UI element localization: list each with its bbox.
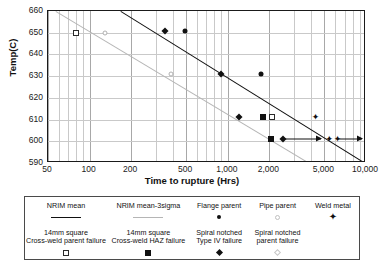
- data-point: [269, 114, 275, 120]
- legend-grid: NRIM meanNRIM mean-3sigmaFlange parentPi…: [25, 197, 359, 259]
- legend-label: Flange parent: [197, 202, 241, 211]
- y-tick: 640: [3, 48, 43, 58]
- y-tick-label: 640: [3, 48, 43, 58]
- legend-symbol: [63, 247, 69, 258]
- x-tick-label: 2,000: [258, 164, 279, 174]
- x-tick-label: 50: [42, 164, 51, 174]
- filled-diamond-icon: [216, 249, 223, 256]
- data-point: ✦: [312, 114, 319, 121]
- legend-label: Weld metal: [315, 202, 351, 211]
- legend-label: Pipe parent: [259, 202, 296, 211]
- legend-item: Spiral notchedType IV failure: [190, 227, 248, 259]
- x-tick-label: 200: [123, 164, 137, 174]
- x-axis-title: Time to rupture (Hrs): [0, 175, 384, 186]
- data-point: [259, 71, 264, 76]
- legend-item: Pipe parent: [248, 197, 306, 227]
- gridline-horizontal: [48, 54, 364, 55]
- y-tick: 660: [3, 5, 43, 15]
- x-tick-label: 500: [178, 164, 192, 174]
- legend-symbol: [217, 247, 222, 258]
- x-tick-label: 1,000: [216, 164, 237, 174]
- y-tick-label: 650: [3, 27, 43, 37]
- line-swatch-light: [133, 217, 163, 218]
- y-tick-label: 660: [3, 5, 43, 15]
- y-tick: 590: [3, 157, 43, 167]
- line-swatch-dark: [51, 217, 81, 218]
- data-point: [103, 30, 108, 35]
- legend-item: Spiral notchedparent failure: [248, 227, 306, 259]
- gridline-horizontal: [48, 33, 364, 34]
- y-tick-label: 620: [3, 92, 43, 102]
- legend-symbol: ✦: [329, 212, 337, 223]
- data-point: [169, 71, 174, 76]
- y-tick-label: 590: [3, 157, 43, 167]
- y-tick: 630: [3, 70, 43, 80]
- y-tick-label: 610: [3, 114, 43, 124]
- y-tick: 600: [3, 135, 43, 145]
- legend-item: Weld metal✦: [307, 197, 359, 227]
- open-circle-icon: [275, 215, 280, 220]
- plot-area: ✦✦✦: [47, 10, 365, 162]
- legend-symbol: [145, 247, 151, 258]
- legend-label: NRIM mean-3sigma: [116, 202, 180, 211]
- legend-item: [307, 227, 359, 259]
- open-square-icon: [63, 250, 69, 256]
- x-tick-label: 10,000: [352, 164, 378, 174]
- creep-rupture-chart: Temp(C) 590600610620630640650660 ✦✦✦ 501…: [0, 0, 384, 190]
- legend-box: NRIM meanNRIM mean-3sigmaFlange parentPi…: [24, 196, 360, 260]
- legend-label: parent failure: [257, 237, 299, 246]
- legend-label: Type IV failure: [196, 237, 242, 246]
- runout-arrow: [283, 139, 321, 140]
- data-point: [260, 114, 266, 120]
- legend-label: Cross-weld parent failure: [26, 237, 106, 246]
- x-tick-label: 100: [82, 164, 96, 174]
- legend-item: NRIM mean: [25, 197, 107, 227]
- filled-square-icon: [145, 250, 151, 256]
- y-tick-label: 600: [3, 135, 43, 145]
- legend-symbol: [217, 212, 221, 223]
- legend-symbol: [275, 212, 280, 223]
- legend-item: Flange parent: [190, 197, 248, 227]
- legend-item: 14mm squareCross-weld parent failure: [25, 227, 107, 259]
- data-point: ✦: [334, 136, 341, 143]
- star-icon: ✦: [329, 212, 337, 222]
- y-tick-label: 630: [3, 70, 43, 80]
- legend-label: Cross-weld HAZ failure: [111, 237, 185, 246]
- data-point: [182, 28, 187, 33]
- data-point: ✦: [326, 136, 333, 143]
- legend-label: NRIM mean: [47, 202, 85, 211]
- legend-symbol: [275, 247, 280, 258]
- filled-circle-icon: [217, 215, 221, 219]
- legend-item: 14mm squareCross-weld HAZ failure: [107, 227, 190, 259]
- legend-item: NRIM mean-3sigma: [107, 197, 190, 227]
- x-tick-label: 5,000: [313, 164, 334, 174]
- y-tick: 620: [3, 92, 43, 102]
- open-diamond-icon: [274, 249, 281, 256]
- chart-page: Temp(C) 590600610620630640650660 ✦✦✦ 501…: [0, 0, 384, 268]
- gridline-horizontal: [48, 76, 364, 77]
- data-point: [73, 30, 79, 36]
- data-point: [268, 136, 274, 142]
- y-tick: 650: [3, 27, 43, 37]
- legend-symbol: [51, 212, 81, 223]
- y-tick: 610: [3, 114, 43, 124]
- legend-symbol: [133, 212, 163, 223]
- gridline-horizontal: [48, 98, 364, 99]
